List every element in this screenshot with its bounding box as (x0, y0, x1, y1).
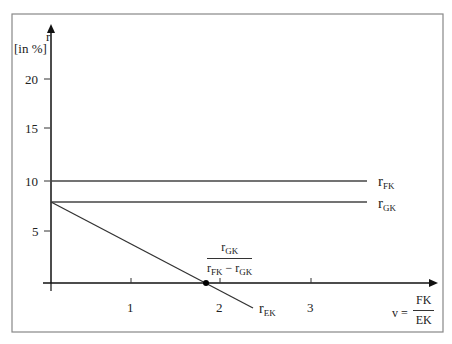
y-tick-label-10: 10 (25, 175, 38, 188)
y-axis-title-unit: [in %] (14, 42, 47, 55)
x-axis-title-fraction: FK EK (413, 293, 434, 328)
break-even-point (203, 280, 209, 286)
label-r-gk: rGK (378, 196, 396, 213)
x-axis-title-prefix: v = (392, 307, 408, 319)
y-tick-label-5: 5 (32, 225, 39, 238)
x-axis-arrow-icon (429, 279, 438, 287)
x-tick-label-3: 3 (307, 301, 314, 314)
y-tick-label-15: 15 (25, 122, 38, 135)
break-even-formula: rGK rFK − rGK (207, 240, 252, 277)
y-tick-label-20: 20 (25, 73, 38, 86)
x-tick-label-1: 1 (127, 301, 134, 314)
chart-canvas (0, 0, 452, 344)
label-r-ek: rEK (259, 302, 276, 318)
x-tick-label-2: 2 (216, 301, 223, 314)
label-r-fk: rFK (378, 174, 395, 191)
